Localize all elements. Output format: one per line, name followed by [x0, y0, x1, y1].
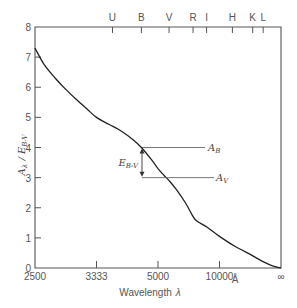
- x-axis-unit: Å: [232, 273, 239, 285]
- svg-text:Aλ / EB-V: Aλ / EB-V: [16, 134, 29, 177]
- band-label-u: U: [109, 12, 116, 23]
- band-label-h: H: [229, 12, 236, 23]
- x-axis-title: Wavelengthλ: [119, 287, 180, 298]
- y-axis-title: Aλ / EB-V: [16, 134, 29, 177]
- ab-label: AB: [207, 142, 220, 155]
- extinction-curve: [35, 48, 281, 268]
- band-label-l: L: [260, 12, 266, 23]
- x-tick-label: 10000: [206, 271, 234, 282]
- arrow-down-icon: [140, 172, 145, 177]
- y-axis-ticks: 012345678: [25, 22, 41, 274]
- y-tick-label: 5: [25, 112, 31, 123]
- y-tick-label: 8: [25, 22, 31, 33]
- y-tick-label: 2: [25, 203, 31, 214]
- photometric-band-ticks: UBVRIHKL: [109, 12, 267, 33]
- band-label-k: K: [249, 12, 256, 23]
- annotations: ABAVEB-V: [118, 142, 230, 185]
- band-label-r: R: [189, 12, 196, 23]
- x-axis-ticks: 25003333500010000∞: [24, 261, 285, 282]
- x-tick-label: ∞: [277, 271, 284, 282]
- band-label-i: I: [205, 12, 208, 23]
- band-label-v: V: [166, 12, 173, 23]
- x-tick-label: 3333: [85, 271, 108, 282]
- ebv-label: EB-V: [118, 157, 139, 170]
- av-label: AV: [215, 172, 229, 185]
- y-tick-label: 7: [25, 52, 31, 63]
- band-label-b: B: [138, 12, 145, 23]
- y-tick-label: 6: [25, 82, 31, 93]
- extinction-chart: 012345678 25003333500010000∞ UBVRIHKL AB…: [0, 0, 297, 308]
- y-tick-label: 1: [25, 233, 31, 244]
- x-tick-label: 2500: [24, 271, 47, 282]
- x-tick-label: 5000: [147, 271, 170, 282]
